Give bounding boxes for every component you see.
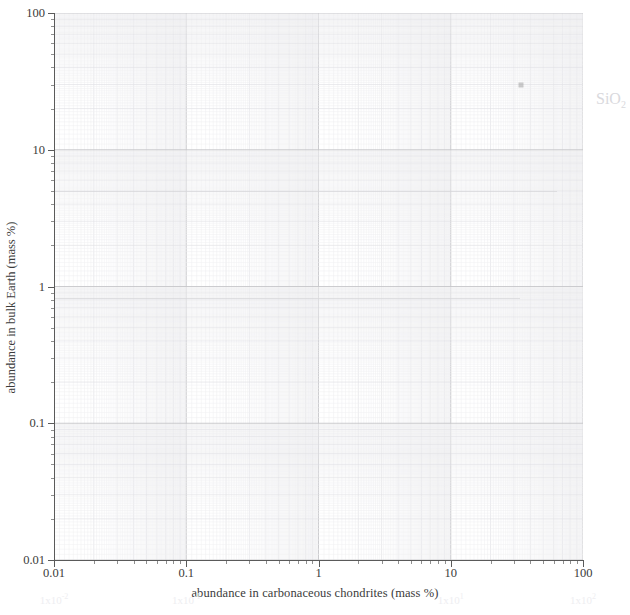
y-axis-minor-tick — [51, 300, 54, 301]
x-axis-minor-tick — [94, 561, 95, 564]
y-axis-minor-tick — [51, 180, 54, 181]
sio2-subscript: 2 — [621, 99, 626, 110]
y-axis-minor-tick — [51, 34, 54, 35]
y-axis-minor-tick — [51, 109, 54, 110]
y-axis-tick — [48, 13, 54, 14]
y-axis-minor-tick — [51, 67, 54, 68]
y-axis-minor-tick — [51, 444, 54, 445]
y-axis-minor-tick — [51, 221, 54, 222]
x-axis-minor-tick — [180, 561, 181, 564]
y-axis-minor-tick — [51, 293, 54, 294]
y-axis-minor-tick — [51, 341, 54, 342]
y-axis-minor-tick — [51, 43, 54, 44]
x-axis-minor-tick — [577, 561, 578, 564]
x-axis-minor-tick — [411, 561, 412, 564]
y-axis-title: abundance in bulk Earth (mass %) — [0, 0, 22, 615]
x-axis-minor-tick — [166, 561, 167, 564]
y-axis-tick — [48, 150, 54, 151]
x-axis-minor-tick — [279, 561, 280, 564]
x-axis-minor-tick — [382, 561, 383, 564]
x-axis-minor-tick — [117, 561, 118, 564]
y-axis-minor-tick — [51, 519, 54, 520]
y-axis-minor-tick — [51, 19, 54, 20]
x-axis-minor-tick — [358, 561, 359, 564]
data-point — [519, 82, 524, 87]
y-axis-minor-tick — [51, 317, 54, 318]
x-axis-minor-tick — [570, 561, 571, 564]
ghost-axis-label: 1x10-1 — [172, 592, 201, 606]
x-axis-minor-tick — [491, 561, 492, 564]
x-axis-minor-tick — [398, 561, 399, 564]
x-axis-tick-label: 0.1 — [178, 566, 194, 581]
x-axis-tick-label: 0.01 — [43, 566, 65, 581]
x-axis-tick-label: 10 — [445, 566, 458, 581]
y-axis-minor-tick — [51, 156, 54, 157]
x-axis-minor-tick — [530, 561, 531, 564]
x-axis-minor-tick — [445, 561, 446, 564]
x-axis-minor-tick — [157, 561, 158, 564]
x-axis-minor-tick — [563, 561, 564, 564]
y-axis-minor-tick — [51, 308, 54, 309]
y-axis-minor-tick — [51, 54, 54, 55]
x-axis-tick-label: 1 — [315, 566, 321, 581]
x-axis-minor-tick — [554, 561, 555, 564]
y-axis-minor-tick — [51, 85, 54, 86]
x-axis-title: abundance in carbonaceous chondrites (ma… — [0, 586, 630, 601]
y-axis-minor-tick — [51, 204, 54, 205]
x-axis-minor-tick — [173, 561, 174, 564]
plot-area — [54, 13, 583, 560]
y-axis-tick — [48, 287, 54, 288]
y-axis-minor-tick — [51, 495, 54, 496]
scan-smudge — [54, 298, 520, 299]
y-axis-minor-tick — [51, 382, 54, 383]
x-axis-minor-tick — [543, 561, 544, 564]
y-axis-tick — [48, 423, 54, 424]
x-axis-minor-tick — [226, 561, 227, 564]
y-axis-minor-tick — [51, 245, 54, 246]
x-axis-tick-label: 100 — [574, 566, 593, 581]
figure: 0.010.1110100 0.010.1110100 abundance in… — [0, 0, 630, 615]
y-axis-minor-tick — [51, 454, 54, 455]
y-axis-minor-tick — [51, 26, 54, 27]
x-axis-minor-tick — [266, 561, 267, 564]
x-axis-minor-tick — [298, 561, 299, 564]
x-axis-minor-tick — [134, 561, 135, 564]
x-axis-minor-tick — [289, 561, 290, 564]
grid — [54, 13, 583, 560]
x-axis-minor-tick — [146, 561, 147, 564]
y-axis-minor-tick — [51, 191, 54, 192]
ghost-axis-label: 1x101 — [438, 592, 464, 606]
scan-smudge — [54, 191, 557, 192]
x-axis-minor-tick — [306, 561, 307, 564]
y-axis-minor-tick — [51, 478, 54, 479]
y-axis-minor-tick — [51, 464, 54, 465]
ghost-axis-label: 1x10-2 — [40, 592, 69, 606]
x-axis-minor-tick — [514, 561, 515, 564]
y-axis-minor-tick — [51, 163, 54, 164]
ghost-axis-label: 1x102 — [570, 592, 596, 606]
x-axis-minor-tick — [249, 561, 250, 564]
y-axis-line — [54, 13, 55, 561]
x-axis-minor-tick — [438, 561, 439, 564]
x-axis-minor-tick — [430, 561, 431, 564]
y-axis-minor-tick — [51, 358, 54, 359]
x-axis-minor-tick — [312, 561, 313, 564]
x-axis-minor-tick — [421, 561, 422, 564]
y-axis-minor-tick — [51, 171, 54, 172]
y-axis-minor-tick — [51, 328, 54, 329]
y-axis-minor-tick — [51, 437, 54, 438]
sio2-annotation: SiO2 — [596, 90, 626, 110]
y-axis-minor-tick — [51, 430, 54, 431]
